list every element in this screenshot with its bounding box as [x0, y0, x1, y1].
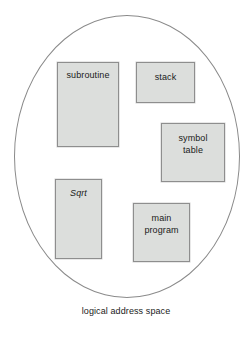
segment-main-program: main program: [133, 203, 190, 262]
segment-subroutine-label: subroutine: [66, 63, 109, 82]
segment-stack-label: stack: [155, 63, 177, 84]
segment-sqrt-label: Sqrt: [70, 180, 87, 200]
segment-subroutine: subroutine: [57, 62, 119, 147]
figure-caption: logical address space: [0, 306, 252, 316]
segment-main-program-label: main program: [144, 204, 178, 236]
logical-address-space-figure: subroutine stack symbol table Sqrt main …: [0, 0, 252, 338]
segment-stack: stack: [136, 62, 195, 103]
segment-sqrt: Sqrt: [55, 179, 102, 259]
segment-symbol-table: symbol table: [161, 123, 225, 182]
segment-symbol-table-label: symbol table: [178, 124, 207, 156]
